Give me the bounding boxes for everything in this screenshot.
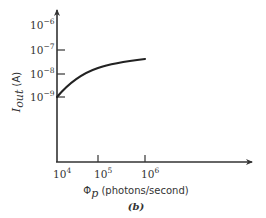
chart-canvas: 10−6 10−7 10−8 10−9 104 105 106 Iout (A)… [0, 0, 266, 218]
x-tick-label-1e6: 106 [141, 166, 159, 180]
response-curve [57, 59, 145, 97]
x-tick-label-1e4: 104 [53, 166, 71, 180]
x-axis-title: Φp (photons/second) [83, 185, 188, 200]
x-tick-label-1e5: 105 [94, 166, 112, 180]
x-ticks [98, 155, 145, 162]
y-tick-label-1e-9: 10−9 [30, 89, 55, 103]
y-tick-label-1e-7: 10−7 [30, 42, 55, 56]
y-tick-label-1e-8: 10−8 [30, 66, 55, 80]
figure-caption: (b) [128, 201, 145, 212]
y-axis-title: Iout (A) [10, 72, 26, 113]
y-tick-label-1e-6: 10−6 [30, 17, 55, 31]
